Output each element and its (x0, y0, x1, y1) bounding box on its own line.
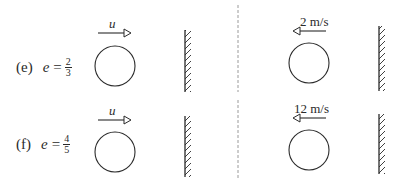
row-e-label: (e) e = 2 3 (16, 57, 72, 78)
row-f-label: (f) e = 4 5 (16, 134, 70, 155)
wall-icon (379, 26, 385, 91)
velocity-label: 12 m/s (294, 101, 329, 117)
equals-sign: = (53, 59, 61, 76)
row-e-left-case (95, 29, 191, 92)
ball (95, 132, 135, 172)
coefficient-fraction: 4 5 (63, 134, 70, 155)
velocity-label: u (109, 16, 116, 32)
coefficient-symbol: e (43, 59, 50, 76)
wall-icon (379, 114, 385, 174)
ball (289, 130, 329, 170)
row-f-left-case (95, 116, 191, 177)
row-e-right-case (289, 26, 385, 91)
wall-icon (185, 116, 191, 177)
velocity-label: 2 m/s (300, 14, 329, 30)
coefficient-fraction: 2 3 (65, 57, 72, 78)
velocity-label: u (109, 103, 116, 119)
fraction-denominator: 5 (64, 145, 69, 155)
coefficient-symbol: e (41, 136, 48, 153)
fraction-denominator: 3 (66, 68, 71, 78)
case-label: (f) (16, 136, 31, 153)
case-label: (e) (16, 59, 33, 76)
equals-sign: = (52, 136, 60, 153)
ball (95, 46, 135, 86)
ball (289, 43, 329, 83)
wall-icon (185, 30, 191, 92)
row-f-right-case (289, 114, 385, 174)
